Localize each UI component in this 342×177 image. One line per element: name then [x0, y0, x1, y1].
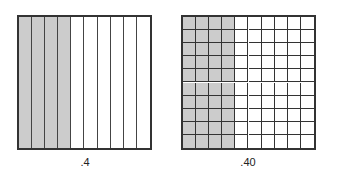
hundredth-cell [183, 109, 196, 122]
hundredth-cell [249, 96, 262, 109]
hundredth-cell [249, 109, 262, 122]
hundredth-cell [288, 30, 301, 43]
hundredth-cell [275, 69, 288, 82]
hundredth-cell [235, 56, 248, 69]
hundredth-cell [249, 56, 262, 69]
hundredth-cell [249, 43, 262, 56]
hundredth-cell [235, 30, 248, 43]
hundredth-cell [222, 135, 235, 148]
hundredth-cell [249, 17, 262, 30]
hundredth-cell [275, 109, 288, 122]
hundredth-cell [222, 56, 235, 69]
tenths-label: .4 [65, 156, 105, 168]
hundredth-cell [196, 135, 209, 148]
hundredth-cell [275, 83, 288, 96]
hundredth-cell [235, 17, 248, 30]
tenth-column [71, 17, 84, 148]
hundredth-cell [301, 17, 314, 30]
hundredth-cell [288, 56, 301, 69]
hundredth-cell [222, 83, 235, 96]
hundredth-cell [301, 122, 314, 135]
hundredth-cell [209, 109, 222, 122]
hundredth-cell [209, 69, 222, 82]
hundredth-cell [275, 56, 288, 69]
hundredth-cell [235, 96, 248, 109]
hundredth-cell [262, 109, 275, 122]
hundredth-cell [209, 122, 222, 135]
hundredth-cell [222, 43, 235, 56]
hundredth-cell [209, 135, 222, 148]
hundredth-cell [222, 96, 235, 109]
hundredth-cell [262, 69, 275, 82]
hundredths-model [181, 15, 316, 150]
hundredth-cell [235, 43, 248, 56]
hundredth-cell [288, 17, 301, 30]
hundredth-cell [288, 135, 301, 148]
tenth-column [124, 17, 137, 148]
hundredth-cell [288, 69, 301, 82]
hundredth-cell [301, 30, 314, 43]
tenth-column [85, 17, 98, 148]
hundredth-cell [301, 43, 314, 56]
hundredth-cell [288, 122, 301, 135]
tenth-column [111, 17, 124, 148]
hundredth-cell [209, 43, 222, 56]
hundredth-cell [262, 96, 275, 109]
hundredth-cell [196, 96, 209, 109]
hundredth-cell [222, 122, 235, 135]
hundredth-cell [301, 135, 314, 148]
hundredth-cell [209, 17, 222, 30]
tenth-column [58, 17, 71, 148]
hundredth-cell [275, 17, 288, 30]
hundredth-cell [288, 96, 301, 109]
hundredth-cell [235, 122, 248, 135]
hundredth-cell [222, 30, 235, 43]
hundredth-cell [196, 83, 209, 96]
hundredth-cell [183, 83, 196, 96]
hundredth-cell [262, 83, 275, 96]
hundredth-cell [183, 56, 196, 69]
hundredths-label: .40 [228, 156, 268, 168]
hundredth-cell [262, 135, 275, 148]
tenth-column [19, 17, 32, 148]
hundredth-cell [262, 17, 275, 30]
hundredth-cell [235, 69, 248, 82]
hundredth-cell [222, 109, 235, 122]
hundredth-cell [209, 30, 222, 43]
hundredth-cell [209, 83, 222, 96]
hundredth-cell [196, 17, 209, 30]
hundredth-cell [275, 135, 288, 148]
tenth-column [98, 17, 111, 148]
hundredth-cell [262, 30, 275, 43]
hundredth-cell [262, 43, 275, 56]
hundredth-cell [196, 30, 209, 43]
tenth-column [137, 17, 150, 148]
hundredth-cell [275, 43, 288, 56]
hundredth-cell [222, 17, 235, 30]
hundredth-cell [275, 96, 288, 109]
hundredth-cell [209, 56, 222, 69]
hundredth-cell [249, 135, 262, 148]
hundredth-cell [235, 83, 248, 96]
hundredth-cell [235, 109, 248, 122]
hundredth-cell [183, 122, 196, 135]
hundredth-cell [301, 96, 314, 109]
hundredth-cell [183, 96, 196, 109]
hundredth-cell [196, 56, 209, 69]
hundredth-cell [275, 122, 288, 135]
hundredth-cell [249, 122, 262, 135]
hundredth-cell [222, 69, 235, 82]
tenth-column [45, 17, 58, 148]
hundredth-cell [183, 43, 196, 56]
hundredth-cell [196, 43, 209, 56]
hundredth-cell [196, 109, 209, 122]
hundredth-cell [249, 30, 262, 43]
tenths-model [17, 15, 152, 150]
hundredth-cell [301, 109, 314, 122]
hundredth-cell [301, 83, 314, 96]
hundredth-cell [196, 69, 209, 82]
hundredth-cell [183, 17, 196, 30]
hundredth-cell [183, 69, 196, 82]
hundredth-cell [301, 69, 314, 82]
hundredth-cell [209, 96, 222, 109]
